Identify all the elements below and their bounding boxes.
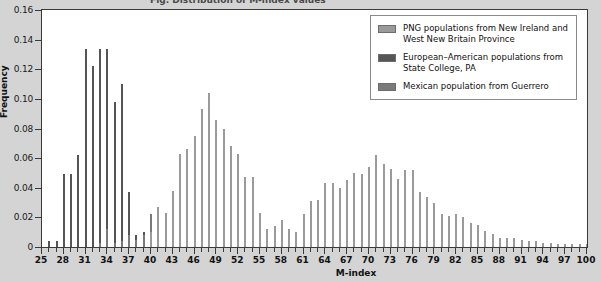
bar bbox=[208, 93, 210, 247]
x-tick-label: 46 bbox=[187, 255, 200, 265]
x-tick bbox=[571, 248, 572, 252]
bar bbox=[419, 192, 421, 247]
bar bbox=[332, 183, 334, 247]
x-tick bbox=[499, 248, 500, 254]
bar bbox=[70, 174, 72, 247]
x-tick bbox=[506, 248, 507, 252]
x-tick bbox=[528, 248, 529, 252]
x-tick bbox=[455, 248, 456, 254]
bar bbox=[521, 240, 523, 247]
x-tick bbox=[557, 248, 558, 252]
legend-swatch-eur bbox=[378, 54, 396, 62]
bar bbox=[121, 84, 123, 247]
x-tick bbox=[513, 248, 514, 252]
x-tick bbox=[259, 248, 260, 254]
x-tick-label: 73 bbox=[384, 255, 397, 265]
bar bbox=[433, 203, 435, 247]
x-tick bbox=[128, 248, 129, 254]
bar bbox=[586, 244, 587, 247]
bar bbox=[92, 66, 94, 247]
x-tick-label: 49 bbox=[209, 255, 222, 265]
x-tick bbox=[99, 248, 100, 252]
x-tick bbox=[194, 248, 195, 254]
x-tick bbox=[550, 248, 551, 252]
legend: PNG populations from New Ireland and Wes… bbox=[370, 15, 577, 100]
legend-item-png: PNG populations from New Ireland and Wes… bbox=[378, 23, 568, 44]
x-tick-label: 94 bbox=[536, 255, 549, 265]
x-tick bbox=[135, 248, 136, 252]
x-tick bbox=[310, 248, 311, 252]
x-tick bbox=[70, 248, 71, 252]
legend-item-eur: European–American populations from State… bbox=[378, 52, 568, 73]
bar bbox=[557, 244, 559, 247]
bar bbox=[223, 129, 225, 248]
bar bbox=[157, 207, 159, 247]
x-tick bbox=[266, 248, 267, 252]
x-tick-label: 34 bbox=[100, 255, 113, 265]
y-tick-label: 0.04 bbox=[14, 183, 33, 193]
bar bbox=[310, 201, 312, 247]
x-tick bbox=[419, 248, 420, 252]
bar bbox=[571, 244, 573, 247]
bar bbox=[99, 49, 101, 247]
x-tick bbox=[521, 248, 522, 254]
x-tick-label: 40 bbox=[144, 255, 157, 265]
y-tick-label: 0.12 bbox=[14, 64, 33, 74]
x-tick-label: 85 bbox=[471, 255, 484, 265]
x-tick bbox=[92, 248, 93, 252]
bar bbox=[404, 170, 406, 247]
x-tick bbox=[375, 248, 376, 252]
x-tick bbox=[346, 248, 347, 254]
x-tick bbox=[63, 248, 64, 254]
x-tick bbox=[448, 248, 449, 252]
x-tick bbox=[165, 248, 166, 252]
x-axis-title: M-index bbox=[336, 268, 377, 278]
bar bbox=[513, 238, 515, 247]
bar bbox=[99, 243, 101, 247]
bar bbox=[201, 109, 203, 247]
bar bbox=[397, 179, 399, 247]
y-tick-label: 0.02 bbox=[14, 212, 33, 222]
bar bbox=[426, 197, 428, 247]
bar bbox=[324, 183, 326, 247]
x-tick bbox=[230, 248, 231, 252]
x-tick bbox=[586, 248, 587, 254]
bar bbox=[114, 243, 116, 247]
bar bbox=[215, 120, 217, 247]
y-tick-label: 0.10 bbox=[14, 94, 33, 104]
x-tick bbox=[252, 248, 253, 252]
x-tick bbox=[441, 248, 442, 252]
bar bbox=[186, 149, 188, 247]
x-tick bbox=[579, 248, 580, 252]
x-tick bbox=[390, 248, 391, 254]
x-tick-label: 25 bbox=[35, 255, 48, 265]
bar bbox=[579, 244, 581, 247]
x-tick-label: 100 bbox=[577, 255, 596, 265]
bar bbox=[56, 241, 58, 247]
bar bbox=[121, 241, 123, 247]
bar bbox=[441, 214, 443, 247]
bar bbox=[564, 244, 566, 247]
x-tick bbox=[317, 248, 318, 252]
x-tick-label: 58 bbox=[275, 255, 288, 265]
bar bbox=[339, 188, 341, 247]
bar bbox=[48, 241, 50, 247]
x-tick bbox=[564, 248, 565, 254]
x-tick bbox=[404, 248, 405, 252]
x-tick bbox=[179, 248, 180, 252]
bar bbox=[288, 229, 290, 247]
bar bbox=[317, 200, 319, 247]
bar bbox=[499, 238, 501, 247]
y-tick-label: 0.08 bbox=[14, 124, 33, 134]
x-tick bbox=[361, 248, 362, 252]
x-tick bbox=[172, 248, 173, 254]
x-tick bbox=[324, 248, 325, 254]
x-tick bbox=[542, 248, 543, 254]
x-tick bbox=[114, 248, 115, 252]
x-tick bbox=[244, 248, 245, 252]
x-tick bbox=[106, 248, 107, 254]
bar bbox=[106, 49, 108, 247]
bar bbox=[143, 235, 145, 247]
x-tick bbox=[77, 248, 78, 252]
x-tick bbox=[150, 248, 151, 254]
